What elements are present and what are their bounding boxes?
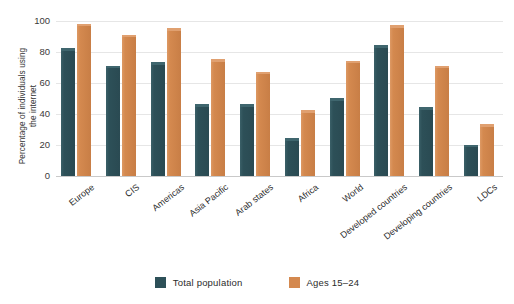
legend-item[interactable]: Total population bbox=[155, 277, 243, 288]
bar-top-cap bbox=[285, 138, 299, 141]
bar-chart: Percentage of individuals using the inte… bbox=[0, 0, 514, 304]
bar-face bbox=[61, 50, 75, 176]
bar-group bbox=[464, 21, 494, 176]
x-axis-tick-label: CIS bbox=[123, 182, 141, 199]
legend-label: Ages 15–24 bbox=[307, 277, 360, 288]
gridline bbox=[56, 176, 503, 177]
y-axis-tick-label: 20 bbox=[22, 139, 50, 151]
x-axis-tick-label: Africa bbox=[296, 182, 320, 204]
x-axis-tick-label: World bbox=[340, 182, 365, 204]
x-axis-labels: EuropeCISAmericasAsia PacificArab states… bbox=[0, 182, 514, 262]
bar-face bbox=[480, 126, 494, 176]
bar-top-cap bbox=[346, 61, 360, 64]
bar-group bbox=[285, 21, 315, 176]
x-axis-tick-label: LDCs bbox=[475, 182, 499, 204]
bar-group bbox=[61, 21, 91, 176]
bar-top-cap bbox=[435, 66, 449, 69]
bar-face bbox=[419, 109, 433, 176]
bar bbox=[330, 100, 344, 176]
bar-face bbox=[435, 68, 449, 177]
bar-face bbox=[106, 68, 120, 177]
bar-group bbox=[330, 21, 360, 176]
bar bbox=[285, 140, 299, 176]
y-axis-tick-label: 0 bbox=[22, 170, 50, 182]
bar-group bbox=[419, 21, 449, 176]
x-axis-tick-label: Europe bbox=[67, 182, 96, 208]
bar-top-cap bbox=[167, 28, 181, 31]
chart-legend: Total populationAges 15–24 bbox=[0, 277, 514, 288]
bar-group bbox=[151, 21, 181, 176]
bar-top-cap bbox=[374, 45, 388, 48]
bar-top-cap bbox=[419, 107, 433, 110]
bar-face bbox=[285, 140, 299, 176]
y-axis-title-line-2: the internet bbox=[29, 85, 38, 127]
bar bbox=[419, 109, 433, 176]
bar-face bbox=[122, 37, 136, 177]
bar-top-cap bbox=[211, 59, 225, 62]
y-axis-tick-label: 60 bbox=[22, 77, 50, 89]
bar-top-cap bbox=[240, 104, 254, 107]
bar bbox=[122, 37, 136, 177]
bar-face bbox=[374, 47, 388, 176]
bar-face bbox=[240, 106, 254, 176]
bar-top-cap bbox=[256, 72, 270, 75]
bar bbox=[464, 147, 478, 176]
bar-group bbox=[195, 21, 225, 176]
bar-face bbox=[195, 106, 209, 176]
bar-face bbox=[390, 27, 404, 176]
bar-top-cap bbox=[330, 98, 344, 101]
bar bbox=[77, 26, 91, 176]
bar bbox=[195, 106, 209, 176]
legend-label: Total population bbox=[173, 277, 243, 288]
bar-group bbox=[374, 21, 404, 176]
bar bbox=[240, 106, 254, 176]
bar bbox=[151, 64, 165, 176]
bar bbox=[374, 47, 388, 176]
bar-face bbox=[151, 64, 165, 176]
y-axis-tick-label: 100 bbox=[22, 15, 50, 27]
bar-face bbox=[301, 112, 315, 176]
y-axis-tick-label: 40 bbox=[22, 108, 50, 120]
bar-top-cap bbox=[151, 62, 165, 65]
bar-top-cap bbox=[480, 124, 494, 127]
bar bbox=[167, 30, 181, 176]
bar bbox=[61, 50, 75, 176]
bar bbox=[301, 112, 315, 176]
bar-top-cap bbox=[464, 145, 478, 148]
bar bbox=[211, 61, 225, 176]
bar-face bbox=[346, 63, 360, 176]
bar bbox=[390, 27, 404, 176]
bar bbox=[256, 74, 270, 176]
bar-face bbox=[256, 74, 270, 176]
bar-face bbox=[330, 100, 344, 176]
bar-face bbox=[77, 26, 91, 176]
bar bbox=[346, 63, 360, 176]
legend-item[interactable]: Ages 15–24 bbox=[289, 277, 360, 288]
legend-color-swatch bbox=[289, 277, 300, 288]
x-axis-tick-label: Asia Pacific bbox=[188, 182, 231, 219]
bar bbox=[435, 68, 449, 177]
bar-top-cap bbox=[390, 25, 404, 28]
bar-top-cap bbox=[61, 48, 75, 51]
bar-top-cap bbox=[301, 110, 315, 113]
bar bbox=[106, 68, 120, 177]
bar bbox=[480, 126, 494, 176]
bar-top-cap bbox=[77, 24, 91, 27]
plot-area: 020406080100 bbox=[56, 21, 503, 176]
bar-top-cap bbox=[122, 35, 136, 38]
bar-top-cap bbox=[106, 66, 120, 69]
bar-face bbox=[464, 147, 478, 176]
legend-color-swatch bbox=[155, 277, 166, 288]
bar-top-cap bbox=[195, 104, 209, 107]
bar-group bbox=[106, 21, 136, 176]
x-axis-tick-label: Americas bbox=[150, 182, 186, 213]
bar-group bbox=[240, 21, 270, 176]
bar-face bbox=[167, 30, 181, 176]
bar-face bbox=[211, 61, 225, 176]
y-axis-tick-label: 80 bbox=[22, 46, 50, 58]
x-axis-tick-label: Arab states bbox=[233, 182, 275, 218]
